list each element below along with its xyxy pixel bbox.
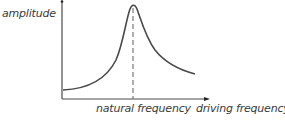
y-axis-tip [61,0,64,3]
natural-frequency-label: natural frequency [96,102,191,115]
y-axis-label: amplitude [2,7,56,20]
x-axis-arrowhead [204,97,210,101]
x-axis-label: driving frequency [196,102,285,115]
resonance-curve [63,5,195,90]
